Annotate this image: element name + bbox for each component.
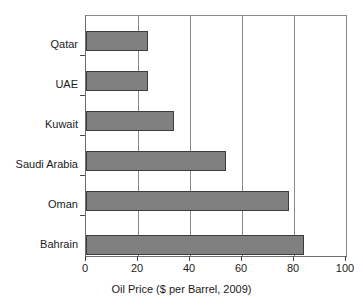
x-axis-tick-40 [189,256,190,261]
bar-saudi-arabia [86,151,226,171]
x-axis-tick-80 [293,256,294,261]
bar-qatar [86,31,148,51]
gridline-40 [190,16,191,256]
x-axis-ticklabel-3: 60 [221,263,261,274]
bar-bahrain [86,235,304,255]
x-axis-ticklabel-2: 40 [169,263,209,274]
bar-uae [86,71,148,91]
y-axis-label-2: Kuwait [0,119,78,130]
x-axis-tick-60 [241,256,242,261]
bar-oman [86,191,289,211]
y-axis-label-4: Oman [0,199,78,210]
bar-chart: Qatar UAE Kuwait Saudi Arabia Oman Bahra… [0,0,363,306]
y-axis-label-0: Qatar [0,39,78,50]
x-axis-ticklabel-0: 0 [65,263,105,274]
gridline-60 [242,16,243,256]
x-axis-tick-100 [345,256,346,261]
bar-kuwait [86,111,174,131]
x-axis-ticklabel-4: 80 [273,263,313,274]
x-axis-title: Oil Price ($ per Barrel, 2009) [0,283,363,295]
y-axis-label-3: Saudi Arabia [0,159,78,170]
y-axis-label-5: Bahrain [0,239,78,250]
x-axis-ticklabel-1: 20 [117,263,157,274]
x-axis-tick-20 [137,256,138,261]
y-axis-category-labels: Qatar UAE Kuwait Saudi Arabia Oman Bahra… [0,15,82,255]
plot-area [85,15,347,257]
x-axis-tick-0 [85,256,86,261]
gridline-80 [294,16,295,256]
gridline-20 [138,16,139,256]
y-axis-label-1: UAE [0,79,78,90]
x-axis-ticklabel-5: 100 [325,263,363,274]
